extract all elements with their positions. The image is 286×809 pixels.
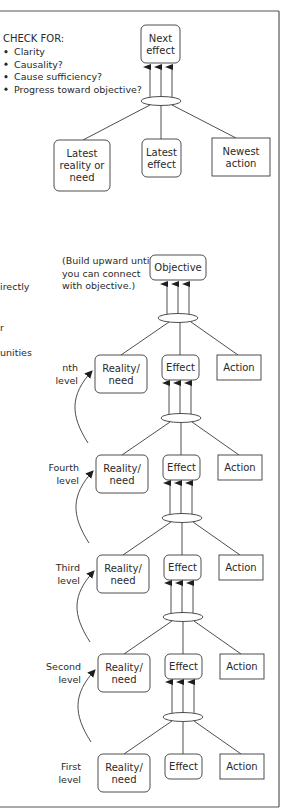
action-box-label-line: Action [224, 462, 255, 473]
connector-line [191, 322, 238, 355]
and-connector [163, 613, 203, 622]
level-label-line: level [58, 674, 81, 685]
build-note-line: with objective.) [62, 280, 135, 291]
reality-need-box-label-line: Reality/ [104, 563, 142, 574]
connector-line [83, 105, 150, 140]
next-effect-box: Nexteffect [141, 25, 180, 63]
latest-reality-box-label-line: need [70, 172, 95, 183]
reality-need-box-label-line: need [109, 375, 134, 386]
objective-box: Objective [150, 255, 206, 280]
checklist-item-label: Progress toward objective? [14, 84, 142, 95]
action-box: Action [218, 455, 262, 480]
bullet-icon [4, 63, 7, 66]
bullet-icon [4, 88, 7, 91]
top-example-tree: NexteffectLatestreality orneedLatesteffe… [54, 25, 270, 191]
checklist-item: Causality? [4, 59, 63, 70]
level-label-line: Fourth [48, 462, 79, 473]
effect-box-label-line: Effect [166, 362, 195, 373]
connector-line [172, 105, 236, 138]
reality-need-box-label-line: need [112, 674, 137, 685]
connector-line [194, 721, 241, 754]
effect-box: Effect [163, 455, 200, 480]
cropped-text-fragment: unities [0, 347, 32, 358]
reality-need-box: Reality/need [97, 555, 149, 593]
latest-effect-box: Latesteffect [142, 139, 181, 177]
reality-need-box-label-line: need [110, 475, 135, 486]
reality-need-box: Reality/need [95, 355, 147, 393]
connector-line [122, 422, 170, 455]
build-note-line: (Build upward until [62, 255, 152, 266]
connector-line [124, 721, 172, 754]
newest-action-box-label-line: action [226, 158, 257, 169]
reality-need-box-label-line: Reality/ [103, 463, 141, 474]
checklist-item-label: Cause sufficiency? [14, 71, 102, 82]
action-box: Action [220, 754, 264, 779]
reality-need-box-label-line: Reality/ [105, 762, 143, 773]
level-row: Reality/needEffectActionFirstlevel [58, 721, 264, 792]
reality-need-box-label-line: need [111, 575, 136, 586]
logic-tree-diagram: CHECK FOR: ClarityCausality?Cause suffic… [0, 0, 286, 809]
cropped-text-fragment: irectly [0, 281, 30, 292]
bullet-icon [4, 75, 7, 78]
next-effect-box-label-line: effect [146, 45, 175, 56]
effect-box-label-line: Effect [167, 462, 196, 473]
action-box: Action [217, 355, 261, 380]
build-note-line: you can connect [62, 268, 141, 279]
level-label-line: level [57, 575, 80, 586]
checklist-heading: CHECK FOR: [3, 33, 64, 44]
level-label-line: Second [46, 661, 81, 672]
level-label-line: level [55, 375, 78, 386]
action-box-label-line: Action [226, 661, 257, 672]
effect-box: Effect [164, 555, 201, 580]
checklist-item: Cause sufficiency? [4, 71, 102, 82]
build-note: (Build upward untilyou can connectwith o… [62, 255, 152, 291]
action-box-label-line: Action [223, 362, 254, 373]
checklist-item: Progress toward objective? [4, 84, 142, 95]
level-row: Reality/needEffectActionFourthlevel [48, 422, 262, 543]
logic-ladder: ObjectiveReality/needEffectActionnthleve… [46, 255, 264, 792]
level-row: Reality/needEffectActionSecondlevel [46, 621, 264, 742]
bullet-icon [4, 50, 7, 53]
objective-label: Objective [154, 262, 201, 273]
action-box: Action [219, 555, 263, 580]
checklist-item-label: Clarity [14, 46, 45, 57]
latest-reality-box-label-line: Latest [67, 148, 98, 159]
level-label-line: level [56, 475, 79, 486]
connector-line [121, 322, 169, 355]
connector-line [123, 522, 171, 555]
and-connector [163, 713, 203, 722]
objective-and-connector [158, 314, 198, 323]
latest-effect-box-label-line: effect [147, 159, 176, 170]
reality-need-box: Reality/need [96, 455, 148, 493]
reality-need-box: Reality/need [98, 754, 150, 792]
connector-line [192, 422, 239, 455]
latest-reality-box: Latestreality orneed [54, 140, 110, 191]
effect-box: Effect [165, 654, 202, 679]
action-box-label-line: Action [225, 562, 256, 573]
level-label-line: Third [55, 562, 80, 573]
effect-box-label-line: Effect [168, 562, 197, 573]
top-and-connector [141, 97, 181, 106]
latest-effect-box-label-line: Latest [146, 147, 177, 158]
level-label-line: nth [62, 362, 78, 373]
level-label-line: level [58, 774, 81, 785]
cropped-text-fragment: r [0, 322, 4, 333]
reality-need-box: Reality/need [98, 654, 150, 692]
and-connector [161, 414, 201, 423]
checklist-item: Clarity [4, 46, 45, 57]
reality-need-box-label-line: Reality/ [105, 662, 143, 673]
connector-line [194, 621, 241, 654]
action-box-label-line: Action [226, 761, 257, 772]
checklist: CHECK FOR: ClarityCausality?Cause suffic… [3, 33, 142, 95]
effect-box: Effect [165, 754, 202, 779]
reality-need-box-label-line: Reality/ [102, 363, 140, 374]
checklist-item-label: Causality? [14, 59, 63, 70]
and-connector [162, 514, 202, 523]
effect-box-label-line: Effect [169, 761, 198, 772]
effect-box-label-line: Effect [169, 661, 198, 672]
effect-box: Effect [162, 355, 199, 380]
reality-need-box-label-line: need [112, 774, 137, 785]
connector-line [193, 522, 240, 555]
next-effect-box-label-line: Next [149, 33, 172, 44]
level-row: Reality/needEffectActionThirdlevel [55, 522, 263, 642]
